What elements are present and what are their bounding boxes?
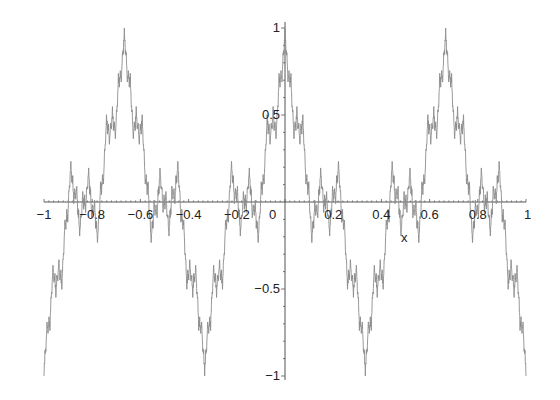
x-axis-title: x [401,231,408,244]
x-tick-label: 0.2 [324,208,342,221]
x-tick-label: 0 [269,208,276,221]
plot-area [0,0,560,400]
x-tick-label: −0.2 [224,208,250,221]
x-tick-label: 0.4 [372,208,390,221]
x-tick-label: 1 [524,208,531,221]
x-tick-label: −0.8 [79,208,105,221]
x-tick-label: −0.4 [176,208,202,221]
y-tick-label: −1 [265,369,280,382]
x-tick-label: 0.8 [469,208,487,221]
x-tick-label: −1 [37,208,52,221]
y-tick-label: 0.5 [262,108,280,121]
y-tick-label: 1 [273,21,280,34]
y-tick-label: −0.5 [254,282,280,295]
x-tick-label: −0.6 [128,208,154,221]
x-tick-label: 0.6 [421,208,439,221]
